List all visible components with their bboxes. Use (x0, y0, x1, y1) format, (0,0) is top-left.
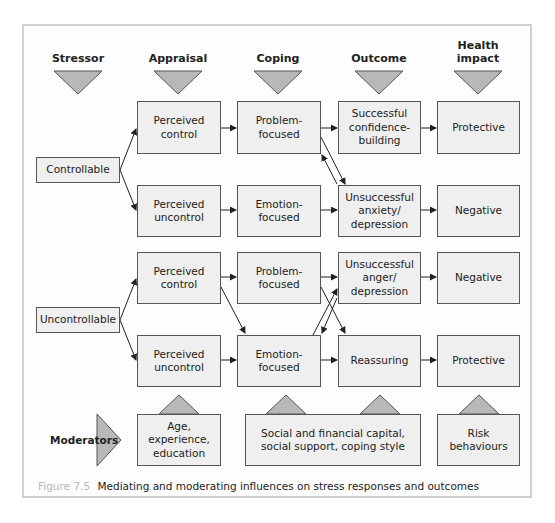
coping-triangle-icon (254, 71, 302, 94)
stressor-controllable-box: Controllable (36, 157, 120, 183)
moderator-social-triangle-1-icon (266, 395, 306, 414)
stressor-triangle-icon (54, 71, 102, 94)
figure-caption-text: Mediating and moderating influences on s… (97, 480, 479, 492)
appraisal-triangle-icon (154, 71, 202, 94)
row1-health-box: Protective (437, 101, 520, 154)
row1-outcome-box: Successful confidence- building (338, 101, 421, 154)
row3-health-box: Negative (437, 252, 520, 304)
row3-appraisal-box: Perceived control (137, 252, 221, 304)
row4-coping-box: Emotion- focused (237, 335, 321, 387)
row2-appraisal-box: Perceived uncontrol (137, 185, 221, 237)
row2-outcome-box: Unsuccessful anxiety/ depression (338, 185, 421, 237)
row4-health-box: Protective (437, 335, 520, 387)
row4-outcome-box: Reassuring (338, 335, 421, 387)
stressor-uncontrollable-box: Uncontrollable (36, 307, 120, 333)
row2-health-box: Negative (437, 185, 520, 237)
row3-coping-box: Problem- focused (237, 252, 321, 304)
row1-appraisal-box: Perceived control (137, 101, 221, 154)
figure-number: Figure 7.5 (38, 480, 90, 492)
outcome-triangle-icon (355, 71, 403, 94)
row4-appraisal-box: Perceived uncontrol (137, 335, 221, 387)
moderators-label: Moderators (50, 434, 118, 446)
moderator-social-triangle-2-icon (360, 395, 400, 414)
row2-coping-box: Emotion- focused (237, 185, 321, 237)
moderator-risk-triangle-icon (459, 395, 499, 414)
moderator-age-triangle-icon (159, 395, 199, 414)
figure-caption: Figure 7.5 Mediating and moderating infl… (38, 480, 479, 492)
health-triangle-icon (454, 71, 502, 94)
row1-coping-box: Problem- focused (237, 101, 321, 154)
moderator-social-box: Social and financial capital, social sup… (245, 414, 421, 466)
row3-outcome-box: Unsuccessful anger/ depression (338, 252, 421, 304)
moderator-age-box: Age, experience, education (137, 414, 221, 466)
moderator-risk-box: Risk behaviours (437, 414, 520, 466)
